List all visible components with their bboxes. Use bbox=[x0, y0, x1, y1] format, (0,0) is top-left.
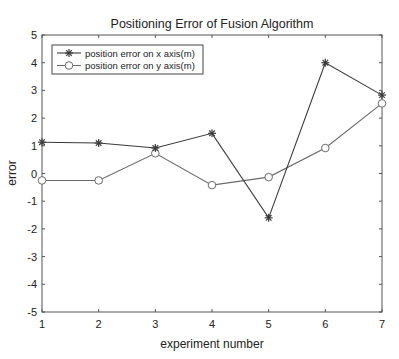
circle-marker-icon bbox=[378, 100, 386, 108]
asterisk-marker-icon bbox=[65, 49, 73, 57]
x-tick-label: 2 bbox=[96, 318, 102, 330]
y-tick-label: -1 bbox=[27, 195, 37, 207]
y-tick-label: 0 bbox=[31, 168, 37, 180]
plot-frame bbox=[42, 35, 382, 312]
line-chart: Positioning Error of Fusion Algorithm 54… bbox=[0, 0, 399, 359]
chart-title: Positioning Error of Fusion Algorithm bbox=[111, 17, 314, 31]
x-tick-label: 4 bbox=[209, 318, 215, 330]
y-axis-label: error bbox=[5, 160, 19, 185]
y-tick-label: 1 bbox=[31, 140, 37, 152]
legend-label: position error on x axis(m) bbox=[85, 48, 195, 59]
y-tick-label: -5 bbox=[27, 306, 37, 318]
x-tick-label: 1 bbox=[39, 318, 45, 330]
y-tick-label: -2 bbox=[27, 223, 37, 235]
series-layer bbox=[38, 59, 386, 222]
legend: position error on x axis(m)position erro… bbox=[52, 45, 203, 74]
circle-marker-icon bbox=[38, 177, 46, 185]
series-0 bbox=[38, 59, 386, 222]
asterisk-marker-icon bbox=[265, 214, 273, 222]
x-axis-label: experiment number bbox=[160, 337, 263, 351]
y-tick-label: 2 bbox=[31, 112, 37, 124]
y-tick-label: -4 bbox=[27, 278, 37, 290]
series-1 bbox=[38, 100, 386, 189]
circle-marker-icon bbox=[322, 144, 330, 152]
y-tick-label: -3 bbox=[27, 251, 37, 263]
series-line bbox=[42, 63, 382, 218]
circle-marker-icon bbox=[265, 173, 273, 181]
asterisk-marker-icon bbox=[38, 138, 46, 146]
circle-marker-icon bbox=[95, 177, 103, 185]
chart-root: Positioning Error of Fusion Algorithm 54… bbox=[0, 0, 399, 359]
asterisk-marker-icon bbox=[378, 91, 386, 99]
circle-marker-icon bbox=[208, 181, 216, 189]
circle-marker-icon bbox=[65, 62, 73, 70]
asterisk-marker-icon bbox=[321, 59, 329, 67]
series-line bbox=[42, 103, 382, 185]
asterisk-marker-icon bbox=[95, 139, 103, 147]
legend-label: position error on y axis(m) bbox=[85, 60, 195, 71]
x-tick-label: 3 bbox=[152, 318, 158, 330]
x-tick-label: 7 bbox=[379, 318, 385, 330]
x-tick-label: 5 bbox=[266, 318, 272, 330]
y-tick-label: 4 bbox=[31, 57, 37, 69]
y-tick-label: 3 bbox=[31, 84, 37, 96]
asterisk-marker-icon bbox=[208, 129, 216, 137]
x-tick-label: 6 bbox=[322, 318, 328, 330]
y-tick-label: 5 bbox=[31, 29, 37, 41]
